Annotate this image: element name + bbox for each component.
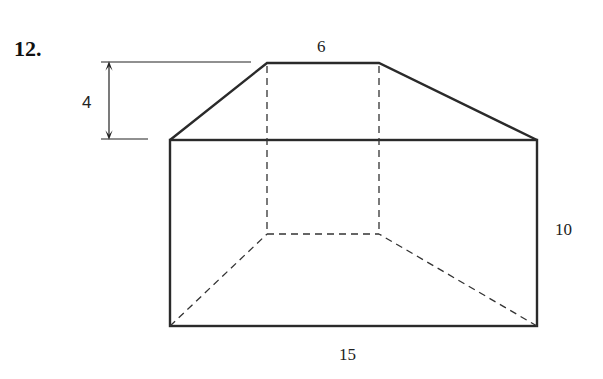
label-length: 15	[339, 345, 356, 365]
label-top-width: 6	[317, 37, 326, 57]
visible-edges	[170, 63, 537, 326]
label-roof-height: 4	[82, 93, 91, 113]
hidden-edges	[170, 66, 537, 326]
extension-lines	[101, 62, 251, 139]
label-box-height: 10	[555, 220, 572, 240]
prism-figure	[0, 0, 603, 379]
